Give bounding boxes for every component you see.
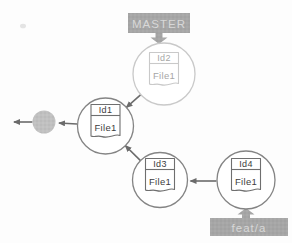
truncated-history-node (33, 111, 56, 134)
master-pointer-arrow-icon (151, 33, 168, 44)
commit-id-label: Id4 (239, 159, 252, 169)
edge-id3-to-id1 (125, 146, 140, 161)
file-label: File1 (149, 176, 171, 187)
commit-graph-diagram: MASTER feat/a Id2 File1 (0, 0, 292, 243)
file-label: File1 (153, 70, 175, 81)
commit-id-label: Id2 (157, 53, 170, 63)
branch-label-master-text: MASTER (132, 18, 186, 30)
branch-label-master: MASTER (128, 13, 190, 44)
commit-node-id1: Id1 File1 (78, 98, 134, 154)
commit-id-label: Id3 (153, 159, 166, 169)
page-artifact (20, 24, 26, 29)
edge-id2-to-id1 (126, 95, 140, 108)
commit-node-id2: Id2 File1 (133, 43, 195, 105)
branch-label-feata: feat/a (210, 208, 288, 236)
file-label: File1 (235, 176, 257, 187)
commit-id-label: Id1 (99, 105, 112, 115)
file-label: File1 (94, 122, 116, 133)
edge-id1-to-history (59, 123, 77, 124)
commit-node-id3: Id3 File1 (133, 153, 188, 208)
diagram-canvas: MASTER feat/a Id2 File1 (0, 0, 292, 243)
branch-label-feata-text: feat/a (232, 222, 267, 234)
commit-node-id4: Id4 File1 (217, 151, 275, 209)
